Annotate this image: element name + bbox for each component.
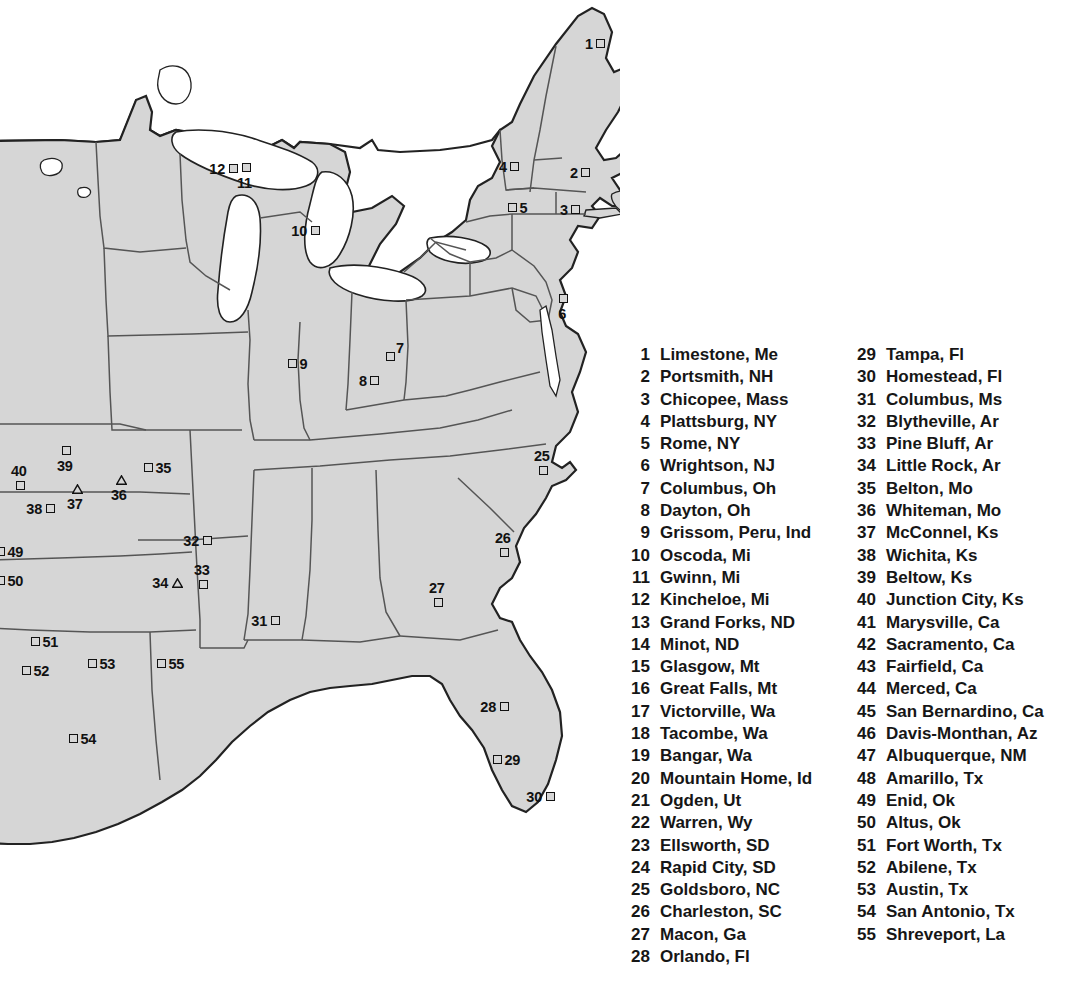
legend-row-label: Abilene, Tx	[876, 858, 977, 878]
small-lake-2	[78, 187, 91, 197]
legend-row-label: Minot, ND	[650, 635, 739, 655]
legend-row-label: Wrightson, NJ	[650, 456, 775, 476]
legend-row-label: Grand Forks, ND	[650, 613, 795, 633]
square-marker-icon	[31, 637, 40, 646]
square-marker-icon	[596, 39, 605, 48]
square-marker-icon	[546, 792, 555, 801]
square-marker-icon	[0, 547, 5, 556]
legend-row-number: 50	[850, 813, 876, 833]
legend-row-number: 17	[624, 702, 650, 722]
legend-row: 31Columbus, Ms	[850, 390, 1044, 412]
square-marker-icon	[242, 163, 251, 172]
legend-row-number: 16	[624, 679, 650, 699]
square-marker-icon	[62, 446, 71, 455]
legend-row-number: 12	[624, 590, 650, 610]
legend-row-label: Merced, Ca	[876, 679, 977, 699]
legend-row-label: Tampa, Fl	[876, 345, 964, 365]
legend-row-label: Tacombe, Wa	[650, 724, 768, 744]
map-marker-label-26: 26	[495, 531, 511, 546]
map-marker-label-30: 30	[526, 790, 542, 805]
map-marker-label-55: 55	[169, 657, 185, 672]
legend-row: 33Pine Bluff, Ar	[850, 434, 1044, 456]
map-marker-label-11: 11	[237, 176, 252, 191]
map-marker-label-33: 33	[194, 563, 210, 578]
legend-row-number: 18	[624, 724, 650, 744]
legend-row: 7Columbus, Oh	[624, 479, 812, 501]
legend-row: 34Little Rock, Ar	[850, 456, 1044, 478]
legend-row: 41Marysville, Ca	[850, 613, 1044, 635]
legend-row-label: Dayton, Oh	[650, 501, 751, 521]
legend-row-label: Victorville, Wa	[650, 702, 775, 722]
legend-row-label: Mountain Home, Id	[650, 769, 812, 789]
legend-row-number: 14	[624, 635, 650, 655]
map-marker-label-38: 38	[26, 502, 42, 517]
legend-row-label: McConnel, Ks	[876, 523, 998, 543]
legend-row: 29Tampa, Fl	[850, 345, 1044, 367]
island-shape-1	[158, 66, 191, 104]
legend-row: 26Charleston, SC	[624, 902, 812, 924]
legend-row-number: 7	[624, 479, 650, 499]
map-marker-label-37: 37	[67, 497, 83, 512]
map-canvas[interactable]: 1234567891011122526272829303132333435363…	[0, 0, 620, 993]
legend-row: 15Glasgow, Mt	[624, 657, 812, 679]
legend-row: 53Austin, Tx	[850, 880, 1044, 902]
legend-row-number: 30	[850, 367, 876, 387]
legend-row: 47Albuquerque, NM	[850, 746, 1044, 768]
map-page: 1234567891011122526272829303132333435363…	[0, 0, 1084, 993]
square-marker-icon	[370, 376, 379, 385]
legend-row-label: Sacramento, Ca	[876, 635, 1015, 655]
legend-row-label: Ellsworth, SD	[650, 836, 770, 856]
legend-row-label: Shreveport, La	[876, 925, 1005, 945]
legend-row: 21Ogden, Ut	[624, 791, 812, 813]
legend-row: 23Ellsworth, SD	[624, 836, 812, 858]
legend-row-number: 11	[624, 568, 650, 588]
legend-row-label: San Bernardino, Ca	[876, 702, 1044, 722]
legend-row-number: 20	[624, 769, 650, 789]
legend-row: 32Blytheville, Ar	[850, 412, 1044, 434]
legend-row-label: Altus, Ok	[876, 813, 961, 833]
legend-column-1: 1Limestone, Me2Portsmith, NH3Chicopee, M…	[624, 345, 812, 969]
legend-row-label: Junction City, Ks	[876, 590, 1024, 610]
legend-row-label: Grissom, Peru, Ind	[650, 523, 811, 543]
legend-row: 2Portsmith, NH	[624, 367, 812, 389]
square-marker-icon	[0, 576, 5, 585]
map-marker-label-53: 53	[100, 657, 116, 672]
legend-row: 5Rome, NY	[624, 434, 812, 456]
square-marker-icon	[46, 504, 55, 513]
legend-row-label: Little Rock, Ar	[876, 456, 1001, 476]
legend-row: 19Bangar, Wa	[624, 746, 812, 768]
legend-row: 22Warren, Wy	[624, 813, 812, 835]
legend-row-number: 23	[624, 836, 650, 856]
legend-row-label: Belton, Mo	[876, 479, 973, 499]
legend-row-number: 22	[624, 813, 650, 833]
legend-row-label: Kincheloe, Mi	[650, 590, 770, 610]
legend-row-number: 39	[850, 568, 876, 588]
square-marker-icon	[510, 162, 519, 171]
legend-row-label: Limestone, Me	[650, 345, 778, 365]
square-marker-icon	[69, 734, 78, 743]
square-marker-icon	[16, 481, 25, 490]
legend-row-label: Homestead, Fl	[876, 367, 1002, 387]
square-marker-icon	[157, 659, 166, 668]
legend-row: 48Amarillo, Tx	[850, 769, 1044, 791]
legend-row: 49Enid, Ok	[850, 791, 1044, 813]
map-landmass	[0, 0, 620, 844]
legend-row-number: 31	[850, 390, 876, 410]
legend-row-number: 15	[624, 657, 650, 677]
map-marker-label-36: 36	[111, 488, 127, 503]
legend-row-number: 37	[850, 523, 876, 543]
legend-row-label: Portsmith, NH	[650, 367, 773, 387]
legend-row: 51Fort Worth, Tx	[850, 836, 1044, 858]
legend-row-number: 54	[850, 902, 876, 922]
map-marker-label-51: 51	[43, 635, 59, 650]
legend-row: 11Gwinn, Mi	[624, 568, 812, 590]
map-marker-label-9: 9	[300, 357, 308, 372]
legend-row-number: 26	[624, 902, 650, 922]
legend: 1Limestone, Me2Portsmith, NH3Chicopee, M…	[624, 345, 1076, 945]
legend-row-number: 13	[624, 613, 650, 633]
us-map-svg	[0, 0, 620, 993]
legend-row: 12Kincheloe, Mi	[624, 590, 812, 612]
map-marker-label-35: 35	[156, 461, 172, 476]
legend-row: 40Junction City, Ks	[850, 590, 1044, 612]
map-marker-label-5: 5	[520, 201, 528, 216]
